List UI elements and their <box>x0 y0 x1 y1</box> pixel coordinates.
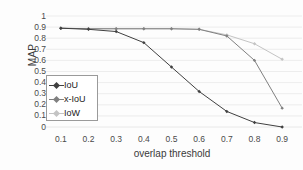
data-point-marker <box>253 121 256 124</box>
y-tick-label: 0.4 <box>34 78 46 87</box>
y-tick-label: 0.7 <box>34 45 46 54</box>
legend-item-iow[interactable]: IoW <box>47 106 97 120</box>
chart-legend: IoUx-IoUIoW <box>46 75 98 121</box>
x-tick-label: 0.2 <box>76 134 102 144</box>
x-tick-label: 0.6 <box>186 134 212 144</box>
y-tick-label: 0.9 <box>34 23 46 32</box>
map-vs-overlap-threshold-chart: MAP 10.90.80.70.60.50.40.30.20.10 IoUx-I… <box>0 0 303 170</box>
legend-item-label: x-IoU <box>64 94 86 104</box>
legend-marker-icon <box>49 80 64 90</box>
legend-marker-icon <box>49 94 64 104</box>
x-tick-label: 0.7 <box>214 134 240 144</box>
legend-item-label: IoU <box>64 80 78 90</box>
series-line <box>61 28 282 59</box>
y-tick-label: 1 <box>41 12 46 21</box>
y-tick-label: 0.2 <box>34 100 46 109</box>
data-point-marker <box>170 27 173 30</box>
x-tick-label: 0.4 <box>131 134 157 144</box>
legend-marker-icon <box>49 108 64 118</box>
data-point-marker <box>280 125 283 128</box>
legend-item-x-iou[interactable]: x-IoU <box>47 92 97 106</box>
x-tick-label: 0.5 <box>159 134 185 144</box>
data-point-marker <box>142 27 145 30</box>
x-tick-label: 0.8 <box>242 134 268 144</box>
legend-item-iou[interactable]: IoU <box>47 78 97 92</box>
y-tick-label: 0.5 <box>34 67 46 76</box>
y-tick-label: 0.3 <box>34 89 46 98</box>
data-point-marker <box>114 30 117 33</box>
y-tick-label: 0.6 <box>34 56 46 65</box>
x-tick-label: 0.3 <box>103 134 129 144</box>
x-axis-title: overlap threshold <box>47 148 297 159</box>
legend-item-label: IoW <box>64 108 80 118</box>
x-axis-tick-labels: 0.10.20.30.40.50.60.70.80.9 <box>47 134 297 148</box>
data-point-marker <box>87 28 90 31</box>
y-tick-label: 0.8 <box>34 34 46 43</box>
x-tick-label: 0.9 <box>269 134 295 144</box>
x-tick-label: 0.1 <box>48 134 74 144</box>
data-point-marker <box>197 28 200 31</box>
series-iow <box>59 27 284 61</box>
y-tick-label: 0.1 <box>34 111 46 120</box>
y-tick-label: 0 <box>41 123 46 132</box>
y-axis-tick-labels: 10.90.80.70.60.50.40.30.20.10 <box>18 10 46 134</box>
